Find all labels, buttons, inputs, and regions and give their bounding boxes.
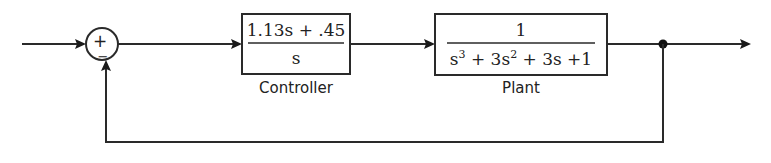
plant-den-mid: + 3s	[466, 49, 511, 69]
plus-sign: +	[93, 31, 107, 51]
plant-block: 1 s3 + 3s2 + 3s +1 Plant	[435, 14, 607, 97]
summing-junction: + −	[86, 28, 118, 64]
plant-label: Plant	[502, 79, 540, 97]
error-signal	[118, 39, 242, 49]
plant-den-tail: + 3s +1	[517, 49, 592, 69]
plant-den-s3-exp: 3	[459, 48, 466, 61]
plant-den-s3-base: s	[450, 49, 459, 69]
output-signal	[607, 39, 751, 49]
controller-block: 1.13s + .45 s Controller	[242, 14, 350, 97]
plant-den-s2-exp: 2	[510, 48, 517, 61]
block-diagram: + − 1.13s + .45 s Controller 1 s3 + 3s2 …	[0, 0, 771, 163]
plant-denominator: s3 + 3s2 + 3s +1	[450, 48, 592, 69]
plant-numerator: 1	[516, 20, 527, 40]
controller-numerator: 1.13s + .45	[247, 20, 346, 40]
minus-sign: −	[98, 49, 109, 64]
controller-denominator: s	[292, 48, 301, 68]
control-signal	[350, 39, 435, 49]
input-signal	[22, 39, 86, 49]
controller-label: Controller	[259, 79, 334, 97]
